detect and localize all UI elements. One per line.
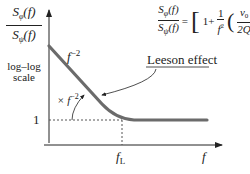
scale-label: log–log scale [3,61,45,83]
numerator-arg: (f) [23,4,35,19]
slope-exp: −2 [71,48,81,58]
nu-over-2q: ν0 2Q [237,6,250,35]
lhs-fraction: Sφ(f) Sψ(f) [158,3,179,38]
two-q: 2Q [237,23,250,35]
tick-one: 1 [33,112,40,128]
inverse-f2: 1 f2 [217,7,224,35]
lhs-num-arg: (f) [168,3,178,15]
corner-sub: L [120,156,126,166]
leeson-arrow [102,69,156,95]
equals-sign: = [182,15,188,27]
frac-den-exp: 2 [221,22,225,30]
times-exp: −2 [70,92,79,101]
left-bracket: [ [191,8,200,34]
nu-sub: 0 [245,12,249,20]
times-f: × f [57,94,70,106]
corner-frequency-label: fL [116,149,125,166]
frac-num: 1 [218,7,224,19]
leeson-equation: Sφ(f) Sψ(f) = [ 1+ 1 f2 ( ν0 2Q )2 ] [158,3,250,38]
slope-label: f−2 [67,48,80,65]
y-axis-label: Sφ(f) Sψ(f) [4,4,44,47]
times-label: × f−2 [57,92,79,106]
lhs-den-arg: (f) [168,21,178,33]
scale-line-2: scale [3,72,45,83]
left-paren: ( [227,10,234,32]
fraction-bar [6,25,42,26]
leeson-effect-label: Leeson effect [147,52,217,68]
denominator-arg: (f) [24,27,36,42]
one-plus: 1+ [203,15,215,27]
x-axis-label: f [202,149,206,165]
